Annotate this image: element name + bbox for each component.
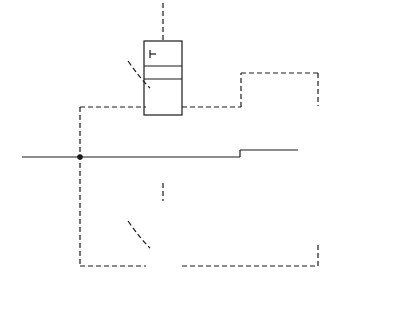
pilot-lines [80,3,318,266]
input-line [22,150,298,157]
valve-a [144,41,182,115]
pneumatic-diagram [0,0,420,331]
